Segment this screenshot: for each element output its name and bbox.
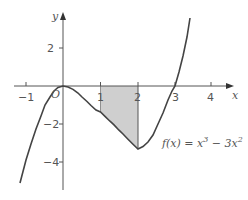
y-tick-label-minus4: −4 xyxy=(43,156,59,169)
function-label: f(x) = x3 − 3x2 xyxy=(161,135,243,150)
x-tick-label-1: 1 xyxy=(97,91,104,104)
origin-label: O xyxy=(51,88,60,101)
y-ticks xyxy=(59,48,63,162)
y-tick-label-minus2: −2 xyxy=(43,118,59,131)
x-axis-label: x xyxy=(232,89,239,102)
y-tick-label-2: 2 xyxy=(47,42,54,55)
cubic-function-graph: y x O −1 1 2 3 4 2 −2 −4 f(x) = x3 − 3x2 xyxy=(0,0,248,200)
y-axis-arrow-icon xyxy=(60,12,66,20)
x-tick-label-3: 3 xyxy=(172,91,179,104)
x-tick-label-minus1: −1 xyxy=(18,91,34,104)
x-tick-label-4: 4 xyxy=(207,91,214,104)
x-tick-label-2: 2 xyxy=(134,91,141,104)
x-ticks xyxy=(26,82,211,86)
y-axis-label: y xyxy=(51,10,59,23)
